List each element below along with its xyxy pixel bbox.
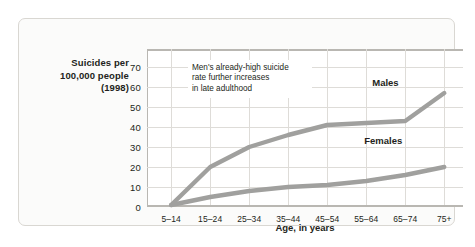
y-axis-title-line-1: Suicides per [25,57,129,70]
y-tick-label-60: 60 [130,82,141,93]
chart-annotation: Men's already-high suicide rate further … [188,60,312,98]
y-tick-label-0: 0 [136,202,141,213]
series-label-males: Males [372,77,398,88]
annotation-line-2: rate further increases [192,73,308,83]
series-label-females: Females [364,135,402,146]
x-axis-title: Age, in years [147,222,463,233]
y-axis-title: Suicides per 100,000 people (1998) [25,57,129,95]
y-tick-label-30: 30 [130,142,141,153]
y-axis-title-line-3: (1998) [25,82,129,95]
y-tick-label-20: 20 [130,162,141,173]
y-tick-label-10: 10 [130,182,141,193]
y-tick-label-40: 40 [130,122,141,133]
y-tick-label-70: 70 [130,62,141,73]
annotation-line-3: in late adulthood [192,84,308,94]
y-tick-label-50: 50 [130,102,141,113]
annotation-line-1: Men's already-high suicide [192,63,308,73]
chart-figure-card: Suicides per 100,000 people (1998) 01020… [18,18,455,226]
line-females [171,167,444,205]
y-axis-title-line-2: 100,000 people [25,70,129,83]
